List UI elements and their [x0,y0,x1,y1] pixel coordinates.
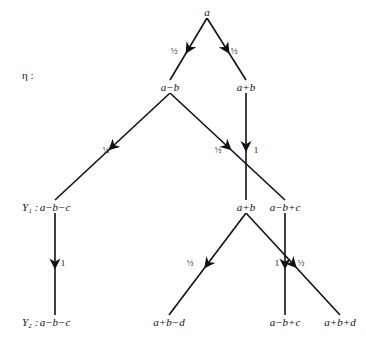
node-y1_2: a+b [236,201,256,213]
level-label-y2: Y₂ : [22,316,38,328]
node-y2_2: a+b−d [152,316,185,328]
node-y1_1: a−b−c [39,201,72,213]
edge-weight: ½ [187,258,194,268]
edge-eta_l-y1_3 [170,93,228,147]
edge-weight: 1 [61,258,66,268]
node-y2_3: a−b+c [269,316,302,328]
edge-weight: ½ [171,46,178,56]
level-label-eta: η : [22,69,34,81]
edge-segment [293,264,340,315]
edge-segment [169,264,208,315]
level-label-y1: Y₁ : [22,201,38,213]
node-y2_4: a+b+d [323,316,356,328]
node-eta_l: a−b [160,81,180,93]
edge-weight: ½ [231,46,238,56]
edge-weight: 1 [254,145,259,155]
edge-layer [0,0,366,338]
edge-eta_l-y1_1 [113,93,171,147]
node-y2_1: a−b−c [39,316,72,328]
edge-y1_2-y2_2 [208,213,247,264]
edge-weight: 1 [275,258,280,268]
edge-y1_2-y2_4 [246,213,293,264]
edge-weight: ½ [215,145,222,155]
edge-root-eta_l [189,18,208,49]
edge-weight: ½ [103,145,110,155]
node-eta_r: a+b [236,81,256,93]
node-root: a [203,6,211,18]
node-y1_3: a−b+c [269,201,302,213]
edge-root-eta_r [207,18,227,49]
edge-weight: ½ [298,258,305,268]
